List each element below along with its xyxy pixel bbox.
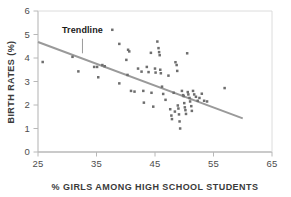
data-point bbox=[191, 110, 194, 113]
y-tick-label: 3 bbox=[25, 76, 30, 87]
trendline-path bbox=[38, 42, 243, 118]
data-point bbox=[96, 66, 99, 69]
data-point bbox=[203, 100, 206, 103]
data-point bbox=[118, 82, 121, 85]
data-point bbox=[196, 100, 199, 103]
data-point bbox=[198, 97, 201, 100]
data-point bbox=[160, 72, 163, 75]
y-axis-title: BIRTH RATES (%) bbox=[6, 40, 16, 123]
x-tick-label: 35 bbox=[91, 158, 102, 169]
data-point bbox=[195, 96, 198, 99]
trendline-annotation: Trendline bbox=[62, 25, 103, 53]
x-tick-label: 65 bbox=[267, 158, 278, 169]
data-point bbox=[143, 101, 146, 104]
data-point bbox=[128, 50, 131, 53]
data-point bbox=[187, 93, 190, 96]
data-point bbox=[162, 93, 165, 96]
data-point bbox=[150, 92, 153, 95]
data-point bbox=[185, 113, 188, 116]
data-point bbox=[142, 90, 145, 93]
scatter-chart: 0123456 2535455565 Trendline % GIRLS AMO… bbox=[0, 0, 291, 197]
y-tick-label: 4 bbox=[25, 52, 30, 63]
y-tick-label: 1 bbox=[25, 123, 30, 134]
data-point bbox=[182, 95, 185, 98]
data-point bbox=[137, 67, 140, 70]
data-point bbox=[161, 85, 164, 88]
x-axis-ticks: 2535455565 bbox=[33, 152, 278, 169]
data-point bbox=[133, 90, 136, 93]
chart-canvas: 0123456 2535455565 Trendline % GIRLS AMO… bbox=[0, 0, 291, 197]
trendline bbox=[38, 42, 243, 118]
data-point bbox=[126, 74, 129, 77]
data-point bbox=[170, 114, 173, 117]
data-point bbox=[188, 97, 191, 100]
data-point bbox=[164, 99, 167, 102]
y-tick-label: 5 bbox=[25, 29, 30, 40]
data-point bbox=[174, 110, 177, 113]
y-axis-ticks: 0123456 bbox=[25, 5, 38, 157]
data-point bbox=[93, 66, 96, 69]
data-point bbox=[130, 90, 133, 93]
data-point bbox=[223, 87, 226, 90]
y-tick-label: 6 bbox=[25, 5, 30, 16]
data-point bbox=[157, 47, 160, 50]
data-point bbox=[172, 92, 175, 95]
data-point bbox=[179, 127, 182, 130]
x-axis-title: % GIRLS AMONG HIGH SCHOOL STUDENTS bbox=[52, 182, 259, 192]
data-point bbox=[186, 52, 189, 55]
data-point bbox=[189, 100, 192, 103]
data-point bbox=[178, 120, 181, 123]
data-point bbox=[158, 51, 161, 54]
y-tick-label: 0 bbox=[25, 146, 30, 157]
data-point bbox=[97, 76, 100, 79]
data-point bbox=[111, 29, 114, 32]
data-point bbox=[175, 64, 178, 67]
data-point bbox=[177, 107, 180, 110]
data-point bbox=[201, 92, 204, 95]
data-point bbox=[150, 52, 153, 55]
data-point bbox=[181, 90, 184, 93]
data-point bbox=[147, 71, 150, 74]
data-point bbox=[41, 61, 44, 64]
data-point bbox=[167, 74, 170, 77]
data-point bbox=[184, 106, 187, 109]
data-point bbox=[169, 108, 172, 111]
data-point bbox=[125, 59, 128, 62]
data-point bbox=[193, 93, 196, 96]
data-point bbox=[140, 70, 143, 73]
data-point bbox=[183, 102, 186, 105]
data-point bbox=[159, 69, 162, 72]
data-point bbox=[190, 105, 193, 108]
data-point bbox=[174, 61, 177, 64]
data-point bbox=[77, 70, 80, 73]
data-point bbox=[187, 91, 190, 94]
data-point bbox=[158, 54, 161, 57]
data-points bbox=[41, 29, 225, 130]
data-point bbox=[192, 90, 195, 93]
y-tick-label: 2 bbox=[25, 99, 30, 110]
data-point bbox=[156, 40, 159, 43]
data-point bbox=[154, 71, 157, 74]
data-point bbox=[154, 67, 157, 70]
data-point bbox=[101, 64, 104, 67]
data-point bbox=[152, 105, 155, 108]
data-point bbox=[118, 43, 121, 46]
x-tick-label: 55 bbox=[208, 158, 219, 169]
x-tick-label: 45 bbox=[150, 158, 161, 169]
data-point bbox=[177, 104, 180, 107]
data-point bbox=[176, 70, 179, 73]
data-point bbox=[206, 100, 209, 103]
data-point bbox=[103, 65, 106, 68]
data-point bbox=[178, 113, 181, 116]
data-point bbox=[184, 109, 187, 112]
annotation-label: Trendline bbox=[62, 25, 103, 35]
x-tick-label: 25 bbox=[33, 158, 44, 169]
data-point bbox=[171, 118, 174, 121]
data-point bbox=[71, 56, 74, 59]
data-point bbox=[146, 66, 149, 69]
